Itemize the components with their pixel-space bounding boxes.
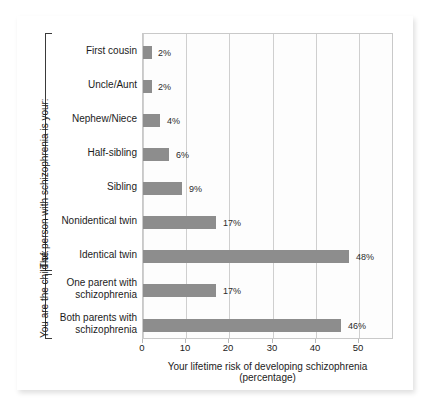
- category-label: Nephew/Niece: [72, 113, 137, 124]
- category-label: One parent with schizophrenia: [17, 277, 137, 301]
- bar-row: 4%: [143, 114, 392, 127]
- bar-value-label: 9%: [189, 184, 202, 194]
- bar-value-label: 48%: [356, 252, 374, 262]
- plot-area: 2% 2% 4% 6%: [142, 33, 393, 339]
- bar-value-label: 2%: [158, 48, 171, 58]
- bar-row: 17%: [143, 284, 392, 297]
- bar-row: 2%: [143, 46, 392, 59]
- bar-row: 9%: [143, 182, 392, 195]
- bar-row: 17%: [143, 216, 392, 229]
- category-label: Sibling: [107, 181, 137, 192]
- x-tick-label: 30: [267, 342, 278, 353]
- bar-row: 2%: [143, 80, 392, 93]
- bar: [143, 182, 182, 195]
- bar-row: 48%: [143, 250, 392, 263]
- x-tick-label: 20: [223, 342, 234, 353]
- category-label: Nonidentical twin: [61, 215, 137, 226]
- bar-value-label: 17%: [223, 286, 241, 296]
- category-label: First cousin: [86, 45, 137, 56]
- x-tick-label: 40: [310, 342, 321, 353]
- category-label-column: First cousin Uncle/Aunt Nephew/Niece Hal…: [17, 33, 137, 339]
- category-label: Identical twin: [79, 249, 137, 260]
- bar: [143, 148, 169, 161]
- x-tick-label: 10: [180, 342, 191, 353]
- bar-series: 2% 2% 4% 6%: [143, 34, 392, 338]
- bar: [143, 80, 152, 93]
- bar: [143, 284, 216, 297]
- bar-value-label: 6%: [176, 150, 189, 160]
- x-tick-label: 0: [139, 342, 144, 353]
- bar: [143, 250, 349, 263]
- bar-chart-figure: The person with schizophrenia is your: Y…: [17, 16, 413, 390]
- category-label: Half-sibling: [88, 147, 137, 158]
- chart-card: The person with schizophrenia is your: Y…: [17, 16, 413, 390]
- bar: [143, 319, 341, 332]
- bar: [143, 46, 152, 59]
- bar: [143, 216, 216, 229]
- bar-value-label: 2%: [158, 82, 171, 92]
- screenshot-root: The person with schizophrenia is your: Y…: [0, 0, 430, 403]
- bar-row: 46%: [143, 319, 392, 332]
- bar: [143, 114, 160, 127]
- bar-value-label: 46%: [348, 321, 366, 331]
- bar-value-label: 17%: [223, 218, 241, 228]
- bar-value-label: 4%: [167, 116, 180, 126]
- category-label: Both parents with schizophrenia: [17, 312, 137, 336]
- x-tick-label: 50: [353, 342, 364, 353]
- bar-row: 6%: [143, 148, 392, 161]
- x-axis-title: Your lifetime risk of developing schizop…: [142, 361, 393, 383]
- category-label: Uncle/Aunt: [88, 79, 137, 90]
